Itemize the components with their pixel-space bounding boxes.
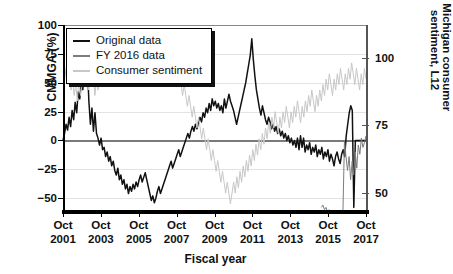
y-tick-label-right: 50 [375, 187, 388, 199]
x-tick-label-month: Oct [315, 219, 341, 233]
series-fy-2016-data [321, 136, 366, 212]
y-tick-label-left: 0 [51, 134, 57, 146]
chart-legend: Original dataFY 2016 dataConsumer sentim… [66, 28, 212, 84]
x-tick-label-year: 2001 [50, 233, 76, 247]
x-axis-title: Fiscal year [63, 252, 368, 266]
x-tick-label-year: 2009 [202, 233, 228, 247]
x-tick-label: Oct2003 [88, 219, 114, 246]
legend-swatch-line-icon [73, 40, 90, 42]
x-tick-label-month: Oct [126, 219, 152, 233]
axis-top-spine [63, 25, 368, 26]
x-tick-label-year: 2003 [88, 233, 114, 247]
x-tick-label-year: 2013 [278, 233, 304, 247]
x-tick-label: Oct2017 [353, 219, 379, 246]
legend-swatch-line-icon [73, 70, 90, 72]
x-tick-label: Oct2015 [315, 219, 341, 246]
y-tick-label-left: −25 [37, 163, 57, 175]
y-axis-right-title: U. Michigan consumer sentiment, L12 [429, 0, 453, 136]
legend-swatch-line-icon [73, 55, 90, 57]
x-tick-label-month: Oct [278, 219, 304, 233]
y-tick-label-right: 75 [375, 119, 388, 131]
x-tick-label-month: Oct [202, 219, 228, 233]
x-tick-label-year: 2007 [164, 233, 190, 247]
x-tick-label: Oct2011 [240, 219, 265, 246]
y-axis-left-title: CMMGA (%) [45, 7, 59, 127]
legend-label: FY 2016 data [96, 48, 165, 63]
x-tick-label-month: Oct [164, 219, 190, 233]
x-tick-label-month: Oct [50, 219, 76, 233]
legend-item: FY 2016 data [73, 48, 202, 63]
y-tick-label-right: 100 [375, 52, 394, 64]
x-tick-label-year: 2005 [126, 233, 152, 247]
legend-label: Original data [96, 33, 161, 48]
x-tick-label-month: Oct [353, 219, 379, 233]
legend-item: Consumer sentiment [73, 63, 202, 78]
y-axis-right-labels: 5075100 [375, 25, 415, 212]
axis-bottom-spine [62, 210, 369, 214]
x-tick-label: Oct2009 [202, 219, 228, 246]
axis-right-spine [366, 25, 368, 212]
x-tick-label: Oct2007 [164, 219, 190, 246]
legend-label: Consumer sentiment [96, 63, 202, 78]
x-axis-labels: Oct2001Oct2003Oct2005Oct2007Oct2009Oct20… [63, 219, 373, 249]
legend-item: Original data [73, 33, 202, 48]
x-tick-label: Oct2005 [126, 219, 152, 246]
x-tick-label-month: Oct [88, 219, 114, 233]
y-tick-label-left: −50 [37, 192, 57, 204]
x-tick-label-year: 2011 [240, 233, 265, 247]
x-tick-label: Oct2013 [278, 219, 304, 246]
x-tick-label-year: 2017 [353, 233, 379, 247]
x-tick-label-month: Oct [240, 219, 265, 233]
x-tick-label: Oct2001 [50, 219, 76, 246]
x-tick-label-year: 2015 [315, 233, 341, 247]
axis-left-spine [63, 25, 65, 212]
